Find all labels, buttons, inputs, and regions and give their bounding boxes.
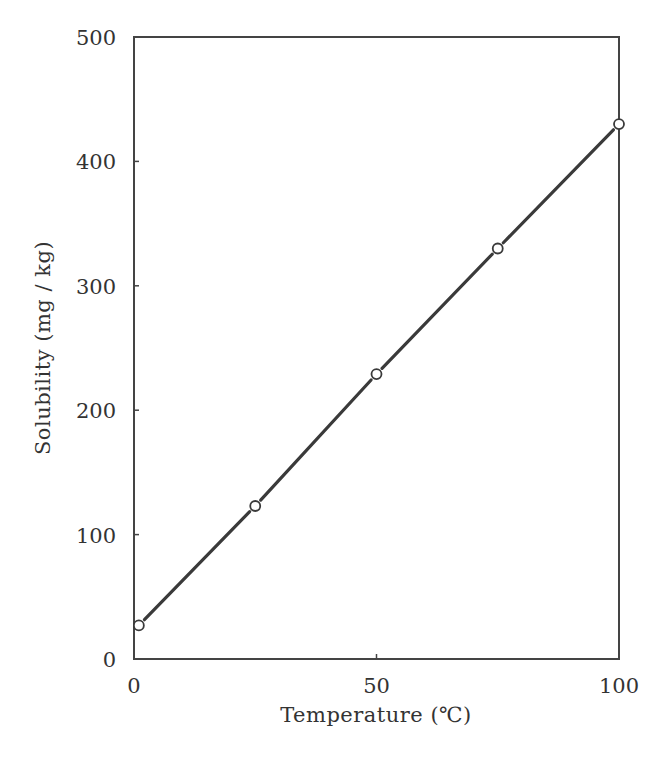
x-axis-title: Temperature (℃) <box>280 703 472 727</box>
data-series <box>134 119 624 630</box>
data-point-marker <box>493 243 503 253</box>
data-point-marker <box>614 119 624 129</box>
y-axis-title: Solubility (mg / kg) <box>31 241 55 455</box>
y-axis-ticks: 0100200300400500 <box>76 26 139 672</box>
series-line-segment <box>144 512 249 620</box>
x-axis-ticks: 050100 <box>127 654 639 698</box>
y-tick-label: 500 <box>76 26 116 50</box>
x-tick-label: 50 <box>363 674 390 698</box>
plot-frame <box>134 37 619 659</box>
y-tick-label: 100 <box>76 524 116 548</box>
x-tick-label: 100 <box>599 674 639 698</box>
y-tick-label: 200 <box>76 399 116 423</box>
series-line-segment <box>382 254 492 368</box>
data-point-marker <box>372 369 382 379</box>
x-tick-label: 0 <box>127 674 140 698</box>
y-tick-label: 300 <box>76 275 116 299</box>
series-line-segment <box>261 380 371 500</box>
solubility-chart: 0100200300400500 050100 Temperature (℃) … <box>0 0 663 770</box>
y-tick-label: 400 <box>76 150 116 174</box>
series-line-segment <box>503 130 613 243</box>
y-tick-label: 0 <box>103 648 116 672</box>
data-point-marker <box>134 620 144 630</box>
data-point-marker <box>250 501 260 511</box>
